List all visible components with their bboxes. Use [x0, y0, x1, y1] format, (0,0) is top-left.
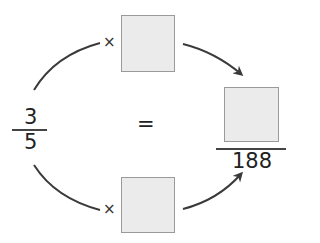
bottom-left-arc	[34, 165, 100, 210]
left-denominator: 5	[24, 132, 37, 153]
left-numerator: 3	[24, 107, 37, 128]
bottom-times-sign: ×	[103, 202, 116, 217]
top-times-sign: ×	[103, 35, 116, 50]
bottom-multiplier-box[interactable]	[121, 177, 175, 233]
bottom-right-arrow	[183, 174, 241, 209]
right-numerator-box[interactable]	[224, 87, 279, 142]
top-right-arrow	[183, 44, 241, 74]
top-left-arc	[34, 43, 100, 90]
equals-sign: =	[137, 114, 155, 135]
top-multiplier-box[interactable]	[121, 15, 175, 72]
right-denominator: 188	[232, 151, 272, 172]
